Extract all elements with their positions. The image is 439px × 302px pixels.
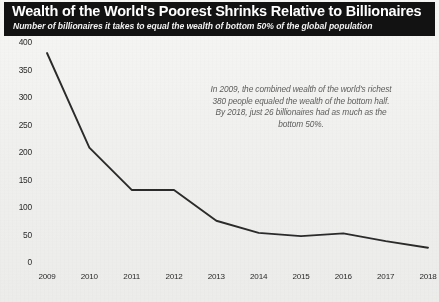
page-title: Wealth of the World's Poorest Shrinks Re…	[12, 3, 422, 19]
chart-annotation: In 2009, the combined wealth of the worl…	[210, 84, 392, 130]
data-series-line	[0, 36, 439, 302]
chart-page: Wealth of the World's Poorest Shrinks Re…	[0, 0, 439, 302]
series-polyline	[47, 53, 428, 248]
plot-area: 050100150200250300350400 200920102011201…	[0, 36, 439, 302]
title-banner: Wealth of the World's Poorest Shrinks Re…	[4, 2, 435, 36]
page-subtitle: Number of billionaires it takes to equal…	[13, 21, 372, 31]
